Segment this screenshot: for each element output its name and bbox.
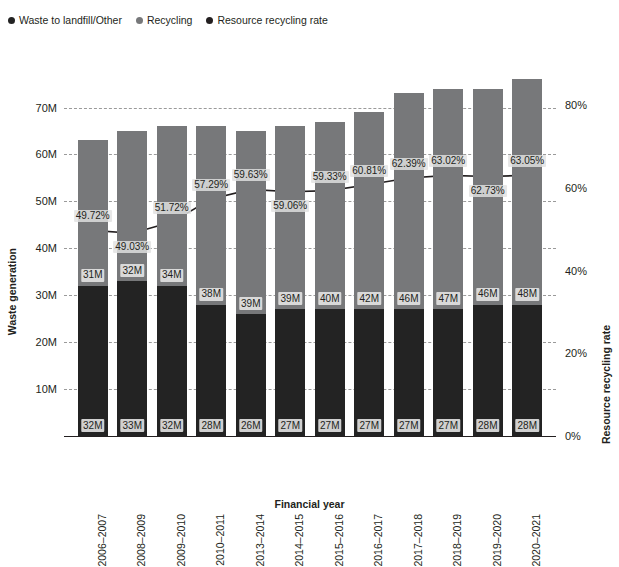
- chart-legend: Waste to landfill/OtherRecyclingResource…: [8, 15, 328, 26]
- bar-segment-waste[interactable]: [433, 309, 463, 436]
- bar-segment-recycling[interactable]: [354, 112, 384, 309]
- bar-column[interactable]: 31M32M: [78, 140, 108, 436]
- x-axis-tick-label: 2008–2009: [136, 514, 147, 567]
- bar-segment-waste[interactable]: [78, 286, 108, 436]
- line-data-label: 62.39%: [390, 158, 428, 170]
- bar-label-recycling: 39M: [239, 297, 262, 310]
- bar-column[interactable]: 47M27M: [433, 89, 463, 436]
- bar-label-recycling: 48M: [516, 288, 539, 301]
- y-axis-tick-label: 30M: [36, 290, 57, 301]
- y2-axis-tick-label: 40%: [565, 265, 587, 276]
- x-axis-tick-label: 2019–2020: [492, 514, 503, 567]
- x-axis-tick-label: 2014–2015: [294, 514, 305, 567]
- bar-column[interactable]: 34M32M: [157, 126, 187, 436]
- bar-label-recycling: 38M: [200, 288, 223, 301]
- bar-segment-recycling[interactable]: [117, 131, 147, 281]
- y-axis-tick-label: 50M: [36, 196, 57, 207]
- bar-column[interactable]: 32M33M: [117, 131, 147, 436]
- x-axis-tick-label: 2013–2014: [255, 514, 266, 567]
- bar-label-waste: 28M: [200, 419, 223, 432]
- line-data-label: 63.02%: [429, 155, 467, 167]
- chart-title: [0, 0, 619, 6]
- bar-column[interactable]: 46M28M: [473, 89, 503, 436]
- y2-axis-tick-label: 20%: [565, 348, 587, 359]
- bar-segment-waste[interactable]: [275, 309, 305, 436]
- bar-segment-recycling[interactable]: [236, 131, 266, 314]
- legend-swatch-icon: [8, 17, 15, 24]
- legend-label: Recycling: [147, 15, 193, 26]
- bar-label-recycling: 32M: [121, 264, 144, 277]
- bar-column[interactable]: 40M27M: [315, 122, 345, 436]
- bar-label-waste: 32M: [81, 419, 104, 432]
- bar-segment-waste[interactable]: [473, 305, 503, 436]
- bar-segment-waste[interactable]: [236, 314, 266, 436]
- bar-label-recycling: 42M: [358, 292, 381, 305]
- bar-column[interactable]: 39M27M: [275, 126, 305, 436]
- line-data-label: 63.05%: [508, 155, 546, 167]
- x-axis-tick-label: 2015–2016: [334, 514, 345, 567]
- bar-label-waste: 33M: [121, 419, 144, 432]
- legend-item-2[interactable]: Resource recycling rate: [206, 15, 327, 26]
- plot-area: 10M20M30M40M50M60M70M0%20%40%60%80%31M32…: [73, 70, 547, 436]
- bar-segment-waste[interactable]: [196, 305, 226, 436]
- bar-column[interactable]: 48M28M: [512, 79, 542, 436]
- legend-swatch-icon: [136, 17, 143, 24]
- bar-segment-recycling[interactable]: [275, 126, 305, 309]
- y2-axis-tick-label: 80%: [565, 100, 587, 111]
- y-axis-tick-label: 70M: [36, 102, 57, 113]
- line-data-label: 51.72%: [153, 202, 191, 214]
- bar-label-recycling: 46M: [476, 288, 499, 301]
- bar-label-waste: 32M: [160, 419, 183, 432]
- legend-label: Waste to landfill/Other: [19, 15, 122, 26]
- x-axis-title: Financial year: [0, 498, 619, 510]
- bar-label-waste: 27M: [358, 419, 381, 432]
- legend-item-0[interactable]: Waste to landfill/Other: [8, 15, 122, 26]
- line-data-label: 59.06%: [271, 200, 309, 212]
- y2-axis-tick-label: 0%: [565, 431, 581, 442]
- y-axis-tick-label: 20M: [36, 337, 57, 348]
- bar-segment-waste[interactable]: [315, 309, 345, 436]
- bar-segment-recycling[interactable]: [394, 93, 424, 309]
- bar-label-waste: 27M: [437, 419, 460, 432]
- bar-segment-waste[interactable]: [512, 305, 542, 436]
- bar-label-recycling: 46M: [397, 292, 420, 305]
- bar-segment-waste[interactable]: [394, 309, 424, 436]
- line-data-label: 49.03%: [113, 241, 151, 253]
- bar-segment-waste[interactable]: [157, 286, 187, 436]
- legend-item-1[interactable]: Recycling: [136, 15, 193, 26]
- x-axis-line: [64, 436, 556, 437]
- x-axis-tick-label: 2010–2011: [215, 514, 226, 566]
- bar-segment-recycling[interactable]: [315, 122, 345, 310]
- y-axis-title: Waste generation: [6, 248, 18, 335]
- bar-label-waste: 28M: [476, 419, 499, 432]
- bar-segment-recycling[interactable]: [196, 126, 226, 304]
- bar-column[interactable]: 46M27M: [394, 93, 424, 436]
- x-axis-tick-label: 2016–2017: [373, 514, 384, 567]
- y-axis-tick-label: 40M: [36, 243, 57, 254]
- bar-label-waste: 27M: [397, 419, 420, 432]
- line-data-label: 62.73%: [469, 185, 507, 197]
- bar-column[interactable]: 38M28M: [196, 126, 226, 436]
- bar-segment-recycling[interactable]: [473, 89, 503, 305]
- bar-segment-recycling[interactable]: [512, 79, 542, 304]
- bar-segment-recycling[interactable]: [433, 89, 463, 310]
- x-axis-tick-label: 2006–2007: [97, 514, 108, 567]
- y-axis-tick-label: 10M: [36, 384, 57, 395]
- line-data-label: 59.63%: [232, 169, 270, 181]
- legend-label: Resource recycling rate: [217, 15, 327, 26]
- bar-label-recycling: 34M: [160, 269, 183, 282]
- bar-label-waste: 26M: [239, 419, 262, 432]
- bar-column[interactable]: 42M27M: [354, 112, 384, 436]
- bar-label-waste: 27M: [318, 419, 341, 432]
- bar-label-waste: 28M: [516, 419, 539, 432]
- bar-label-recycling: 39M: [279, 292, 302, 305]
- x-axis-tick-label: 2017–2018: [413, 514, 424, 567]
- bar-label-waste: 27M: [279, 419, 302, 432]
- y-axis-tick-label: 60M: [36, 149, 57, 160]
- legend-swatch-icon: [206, 17, 213, 24]
- bar-label-recycling: 47M: [437, 292, 460, 305]
- bar-segment-waste[interactable]: [354, 309, 384, 436]
- bar-segment-waste[interactable]: [117, 281, 147, 436]
- y2-axis-title: Resource recycling rate: [600, 325, 612, 444]
